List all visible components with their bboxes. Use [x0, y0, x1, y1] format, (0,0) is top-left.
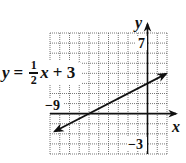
- tick-label-y-7: 7: [138, 36, 145, 51]
- grid-lines: [49, 33, 167, 154]
- tick-label-x-neg9: −9: [45, 98, 60, 113]
- equation-equals: =: [14, 63, 24, 83]
- fraction-denominator: 2: [31, 75, 37, 86]
- equation-fraction: 1 2: [29, 60, 38, 86]
- x-axis-label: x: [171, 118, 180, 135]
- equation-rest: + 3: [53, 63, 75, 83]
- line-graph-figure: x y 7 −3 −9 y = 1 2 x + 3: [0, 0, 186, 163]
- equation-lhs: y: [2, 63, 10, 83]
- y-axis-label: y: [133, 14, 143, 32]
- tick-label-y-neg3: −3: [128, 137, 143, 152]
- fraction-numerator: 1: [31, 60, 37, 71]
- equation-label: y = 1 2 x + 3: [2, 61, 77, 85]
- equation-variable: x: [40, 63, 49, 83]
